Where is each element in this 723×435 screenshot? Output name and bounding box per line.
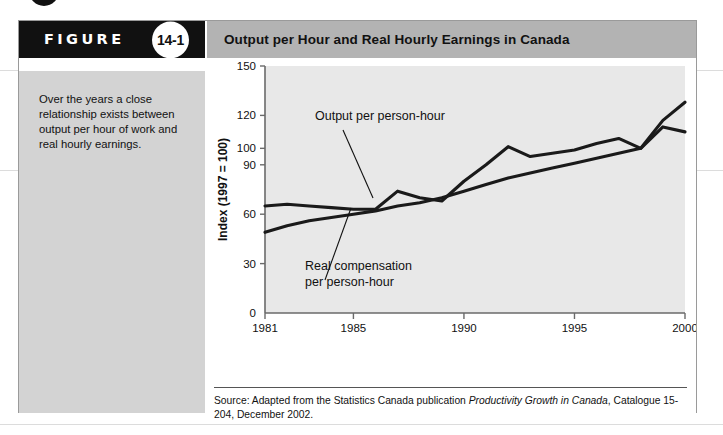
x-tick-label: 2000 bbox=[672, 322, 696, 334]
caption-column: Over the years a close relationship exis… bbox=[19, 71, 205, 413]
annotation-label-1: per person-hour bbox=[305, 275, 394, 289]
page-rule-bottom bbox=[0, 424, 723, 425]
chart-column: 030609010012015019811985199019952000 Ind… bbox=[205, 58, 696, 413]
annotation-label-1: Real compensation bbox=[305, 259, 412, 273]
y-tick-label: 0 bbox=[250, 307, 256, 319]
figure-title-bar: Output per Hour and Real Hourly Earnings… bbox=[205, 21, 696, 58]
y-tick-label: 30 bbox=[243, 258, 256, 270]
x-tick-label: 1995 bbox=[562, 322, 588, 334]
line-chart: 030609010012015019811985199019952000 Ind… bbox=[205, 58, 696, 368]
figure-number: 14-1 bbox=[157, 33, 184, 47]
figure-label: FIGURE bbox=[44, 32, 124, 47]
y-tick-label: 120 bbox=[237, 109, 256, 121]
chart-svg: 030609010012015019811985199019952000 Ind… bbox=[205, 58, 696, 368]
figure-number-circle: 14-1 bbox=[152, 21, 189, 58]
y-tick-label: 100 bbox=[237, 142, 256, 154]
y-axis-title-text: Index (1997 = 100) bbox=[216, 138, 230, 241]
figure-caption: Over the years a close relationship exis… bbox=[39, 92, 185, 152]
source-divider bbox=[214, 387, 687, 388]
page-title: Output per Hour and Real Hourly Earnings… bbox=[224, 32, 570, 47]
page-top-circle-mark bbox=[29, 0, 59, 6]
source-note: Source: Adapted from the Statistics Cana… bbox=[214, 394, 684, 422]
source-prefix: Source: Adapted from the Statistics Cana… bbox=[214, 395, 469, 406]
y-tick-label: 60 bbox=[243, 208, 256, 220]
y-tick-label: 90 bbox=[243, 159, 256, 171]
x-tick-label: 1990 bbox=[451, 322, 477, 334]
figure-panel: FIGURE 14-1 Output per Hour and Real Hou… bbox=[18, 20, 697, 413]
figure-header: FIGURE 14-1 Output per Hour and Real Hou… bbox=[19, 21, 696, 58]
x-tick-label: 1985 bbox=[341, 322, 367, 334]
figure-body: Over the years a close relationship exis… bbox=[19, 58, 696, 413]
x-tick-label: 1981 bbox=[252, 322, 278, 334]
y-axis-title: Index (1997 = 100) bbox=[216, 138, 230, 241]
y-tick-label: 150 bbox=[237, 60, 256, 72]
figure-badge: FIGURE 14-1 bbox=[19, 21, 205, 58]
annotation-label-0: Output per person-hour bbox=[315, 109, 445, 123]
source-publication-title: Productivity Growth in Canada bbox=[469, 395, 608, 406]
